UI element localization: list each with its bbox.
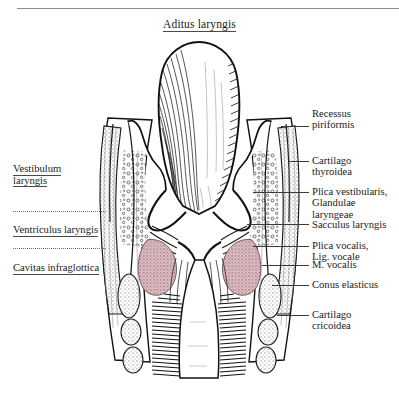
label-cavitas-infraglottica: Cavitas infraglottica xyxy=(13,262,99,274)
label-vestibulum-laryngis: Vestibulum laryngis xyxy=(13,163,61,186)
trachea-hatching-left xyxy=(152,294,182,376)
trachea-hatching-right xyxy=(218,294,246,376)
label-sacculus-laryngis: Sacculus laryngis xyxy=(312,219,386,230)
label-plica-vocalis-line1: Plica vocalis, xyxy=(312,240,369,251)
label-cartilago-cricoidea: Cartilago cricoidea xyxy=(312,309,351,332)
label-recessus-piriformis: Recessus piriformis xyxy=(312,108,354,131)
label-ventriculus-laryngis-text: Ventriculus laryngis xyxy=(13,224,98,237)
label-vestibulum-laryngis-line1: Vestibulum xyxy=(13,163,61,176)
leader-cartilago-thyroidea xyxy=(288,161,309,162)
label-sacculus-laryngis-text: Sacculus laryngis xyxy=(312,219,386,230)
leader-plica-vestibularis xyxy=(253,192,309,193)
divider-ventriculus-cavitas xyxy=(13,248,106,249)
label-cartilago-cricoidea-line1: Cartilago xyxy=(312,309,351,320)
label-m-vocalis-text: M. vocalis xyxy=(312,259,357,270)
leader-recessus-piriformis xyxy=(281,126,309,127)
leader-sacculus-laryngis xyxy=(247,224,309,225)
label-cartilago-thyroidea-line1: Cartilago xyxy=(312,155,352,166)
cavitas-infraglottica xyxy=(179,260,219,378)
label-plica-vestibularis-line2: Glandulae xyxy=(312,197,387,208)
label-cartilago-thyroidea: Cartilago thyroidea xyxy=(312,155,352,178)
label-plica-vestibularis-line1: Plica vestibularis, xyxy=(312,186,387,197)
label-recessus-piriformis-line2: piriformis xyxy=(312,119,354,130)
leader-conus-elasticus xyxy=(272,285,309,286)
label-cavitas-infraglottica-text: Cavitas infraglottica xyxy=(13,262,99,275)
label-plica-vestibularis: Plica vestibularis, Glandulae laryngeae xyxy=(312,186,387,220)
label-conus-elasticus: Conus elasticus xyxy=(312,279,378,290)
leader-cartilago-cricoidea xyxy=(277,315,309,316)
label-ventriculus-laryngis: Ventriculus laryngis xyxy=(13,224,98,236)
divider-vestibulum-ventriculus xyxy=(13,211,106,212)
anatomical-plate-page: Aditus laryngis xyxy=(0,0,399,400)
plica-vocalis xyxy=(178,242,221,260)
label-cartilago-cricoidea-line2: cricoidea xyxy=(312,320,351,331)
label-m-vocalis: M. vocalis xyxy=(312,259,357,270)
label-vestibulum-laryngis-line2: laryngis xyxy=(13,175,47,188)
label-cartilago-thyroidea-line2: thyroidea xyxy=(312,166,352,177)
leader-m-vocalis xyxy=(262,265,309,266)
label-recessus-piriformis-line1: Recessus xyxy=(312,108,354,119)
epiglottis xyxy=(159,42,240,219)
label-conus-elasticus-text: Conus elasticus xyxy=(312,279,378,290)
leader-plica-vocalis xyxy=(253,246,309,247)
